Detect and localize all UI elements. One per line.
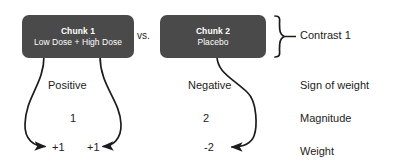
versus-label: vs. (137, 30, 150, 41)
chunk-2-subtitle: Placebo (197, 37, 228, 48)
contrast-label: Contrast 1 (300, 29, 351, 41)
weight-value-left-a: +1 (52, 141, 65, 153)
sign-value-negative: Negative (188, 79, 231, 91)
magnitude-value-left: 1 (70, 112, 76, 124)
sign-value-positive: Positive (48, 79, 87, 91)
chunk-2-title: Chunk 2 (196, 26, 230, 37)
connector-chunk1-to-weight-a (25, 56, 45, 147)
connector-chunk2-to-weight (217, 56, 256, 147)
connector-chunk1-to-weight-b (100, 56, 121, 147)
row-label-magnitude: Magnitude (300, 112, 351, 124)
chunk-box-2[interactable]: Chunk 2 Placebo (160, 15, 266, 58)
chunk-1-subtitle: Low Dose + High Dose (34, 37, 122, 48)
row-label-sign-of-weight: Sign of weight (300, 79, 369, 91)
chunk-1-title: Chunk 1 (61, 26, 95, 37)
chunk-box-1[interactable]: Chunk 1 Low Dose + High Dose (22, 15, 134, 58)
weight-value-right: -2 (204, 141, 214, 153)
magnitude-value-right: 2 (203, 112, 209, 124)
weight-value-left-b: +1 (87, 141, 100, 153)
contrast-weights-diagram: Chunk 1 Low Dose + High Dose vs. Chunk 2… (0, 0, 400, 167)
contrast-brace (275, 16, 284, 57)
row-label-weight: Weight (300, 145, 334, 157)
